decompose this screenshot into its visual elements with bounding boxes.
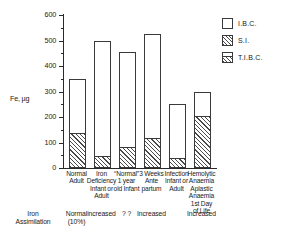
- bars-container: [64, 15, 214, 168]
- category-label-line: Anaemia: [185, 177, 218, 184]
- bar-si-segment-4: [170, 158, 185, 167]
- y-tick-label-300: 300: [45, 88, 56, 95]
- iron-assimilation-title: IronAssimilation: [4, 210, 62, 226]
- category-labels: NormalAdultIronDeficiencyInfant orAdult“…: [64, 170, 218, 206]
- bar-1: [94, 41, 111, 169]
- legend-label-tibc: T.I.B.C.: [238, 54, 263, 61]
- bar-3: [144, 34, 161, 168]
- category-label-line: Aplastic: [185, 185, 218, 192]
- bar-si-segment-5: [195, 116, 210, 167]
- legend-swatch-ibc: [222, 18, 233, 29]
- category-label-line: Hemolytic: [185, 170, 218, 177]
- chart-legend: I.B.C. S.I. T.I.B.C.: [222, 16, 284, 67]
- x-axis-line: [63, 168, 217, 169]
- iron-assimilation-value-5: Increased: [181, 210, 222, 218]
- category-label-line: Adult: [85, 192, 118, 199]
- bar-2: [119, 52, 136, 168]
- bar-si-segment-1: [95, 156, 110, 167]
- iron-assimilation-value-line: Increased: [131, 210, 172, 218]
- y-tick-label-600: 600: [45, 11, 56, 18]
- y-tick-label-0: 0: [52, 164, 56, 171]
- y-tick-label-200: 200: [45, 113, 56, 120]
- legend-label-ibc: I.B.C.: [238, 20, 257, 27]
- legend-label-si: S.I.: [238, 37, 249, 44]
- legend-swatch-si: [222, 35, 233, 46]
- legend-swatch-tibc: [222, 52, 233, 63]
- legend-item-ibc: I.B.C.: [222, 16, 284, 31]
- category-label-line: 1st Day: [185, 200, 218, 207]
- iron-assimilation-row: IronAssimilation Normal(10%)increased? ?…: [0, 210, 288, 232]
- bar-si-segment-0: [70, 133, 85, 167]
- y-axis-title: Fe, µg: [10, 95, 29, 103]
- category-label-line: Anaemia: [185, 192, 218, 199]
- iron-assimilation-value-line: Increased: [181, 210, 222, 218]
- iron-assimilation-value-line: (10%): [56, 218, 97, 226]
- y-tick-label-400: 400: [45, 62, 56, 69]
- y-tick-0: [59, 168, 64, 169]
- iron-assimilation-title-line: Assimilation: [4, 218, 62, 226]
- bar-si-segment-2: [120, 147, 135, 167]
- legend-item-tibc: T.I.B.C.: [222, 50, 284, 65]
- bar-0: [69, 79, 86, 168]
- category-label-5: HemolyticAnaemiaAplasticAnaemia1st Dayof…: [185, 170, 218, 214]
- bar-4: [169, 104, 186, 168]
- bar-si-segment-3: [145, 138, 160, 167]
- iron-assimilation-value-3: Increased: [131, 210, 172, 218]
- bar-5: [194, 92, 211, 169]
- y-tick-label-500: 500: [45, 37, 56, 44]
- iron-assimilation-title-line: Iron: [4, 210, 62, 218]
- legend-item-si: S.I.: [222, 33, 284, 48]
- y-tick-label-100: 100: [45, 139, 56, 146]
- iron-binding-capacity-bar-chart: Fe, µg 6005004003002001000 I.B.C. S.I. T…: [0, 0, 288, 237]
